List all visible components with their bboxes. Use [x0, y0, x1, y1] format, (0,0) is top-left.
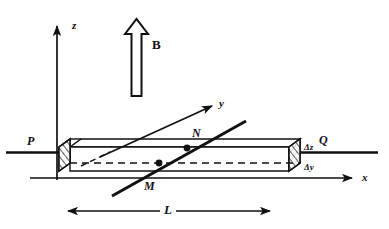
- terminal-q-label: Q: [319, 134, 328, 146]
- physics-diagram-figure: z y x B P Q N M Δz Δy L: [0, 0, 389, 229]
- point-n-label: N: [192, 127, 201, 139]
- point-n-dot: [184, 145, 191, 152]
- z-axis-label: z: [72, 20, 76, 31]
- delta-z-label: Δz: [304, 143, 313, 152]
- length-dimension-label: L: [164, 203, 172, 216]
- x-axis-label: x: [362, 172, 368, 183]
- conducting-bar: [59, 139, 300, 171]
- magnetic-field-label: B: [152, 38, 161, 51]
- point-m-label: M: [144, 180, 155, 192]
- diagram-canvas: [0, 0, 389, 229]
- y-axis-label: y: [219, 98, 224, 109]
- terminal-p-label: P: [27, 135, 34, 147]
- magnetic-field-arrow: [125, 19, 148, 96]
- delta-y-label: Δy: [304, 163, 314, 172]
- point-m-dot: [156, 160, 163, 167]
